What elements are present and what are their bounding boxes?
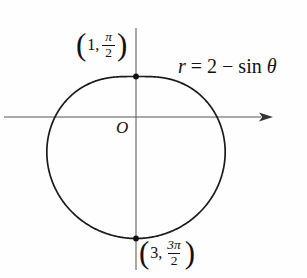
theta-fraction: 3π 2 bbox=[165, 238, 183, 267]
bottom-point-label: ( 3, 3π 2 ) bbox=[139, 238, 195, 268]
close-paren: ) bbox=[185, 237, 195, 268]
equation-func: sin bbox=[238, 54, 261, 78]
open-paren: ( bbox=[76, 29, 86, 60]
theta-fraction: π 2 bbox=[102, 30, 115, 59]
origin-label: O bbox=[116, 118, 128, 138]
fraction-denominator: 2 bbox=[102, 45, 115, 60]
equation-var: θ bbox=[267, 54, 277, 78]
top-point-label: ( 1, π 2 ) bbox=[76, 30, 127, 60]
point-marker-top bbox=[133, 74, 139, 80]
fraction-numerator: π bbox=[103, 30, 114, 44]
x-axis-arrowhead bbox=[259, 112, 273, 121]
close-paren: ) bbox=[117, 29, 127, 60]
equation-equals: = bbox=[191, 54, 202, 78]
r-coordinate: 3, bbox=[150, 244, 162, 262]
plot-svg bbox=[0, 0, 307, 278]
equation-minus: − bbox=[222, 54, 233, 78]
polar-plot-figure: ( 1, π 2 ) ( 3, 3π 2 ) r = 2 − sin θ O bbox=[0, 0, 307, 278]
r-coordinate: 1, bbox=[87, 36, 99, 54]
open-paren: ( bbox=[139, 237, 149, 268]
fraction-numerator: 3π bbox=[165, 238, 183, 252]
fraction-denominator: 2 bbox=[168, 253, 181, 268]
equation-label: r = 2 − sin θ bbox=[178, 54, 277, 78]
equation-lhs: r bbox=[178, 54, 186, 78]
equation-const: 2 bbox=[207, 54, 217, 78]
